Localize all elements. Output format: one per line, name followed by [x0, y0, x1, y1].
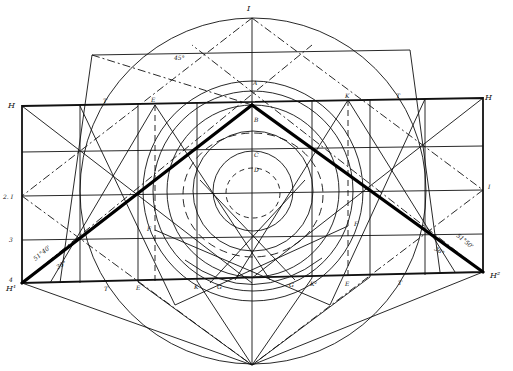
label-H-top-left: H: [8, 102, 15, 110]
label-H2: H²: [490, 272, 500, 280]
label-E-bottom-right: E: [345, 281, 349, 287]
label-H1: H¹: [6, 285, 16, 293]
label-D: D: [254, 167, 259, 173]
label-E-left-top: E: [151, 97, 155, 103]
label-E-bottom-left: E: [136, 285, 140, 291]
circle-a: [143, 81, 363, 301]
label-K-bottom-right: K²: [310, 281, 317, 287]
label-T-bottom-left: T: [104, 286, 108, 292]
label-A: A: [253, 80, 257, 86]
label-row-4: 4: [9, 277, 13, 283]
label-K-bottom-left: K: [194, 284, 198, 290]
thick-line-right: [252, 105, 483, 272]
label-I-left: 2. I: [3, 194, 13, 200]
dashed-oval-outer: [183, 133, 323, 257]
label-row-3: 3: [9, 237, 13, 243]
label-H-top-right: H: [485, 94, 492, 102]
label-G-left: G: [217, 284, 222, 290]
label-K-right-top: K: [345, 93, 349, 99]
label-G-right: G: [289, 282, 294, 288]
circle-e: [213, 151, 293, 231]
label-C: C: [254, 152, 259, 158]
label-I-right: I: [488, 184, 490, 190]
label-F-left: F: [147, 226, 151, 232]
label-top-angle: 45°: [174, 55, 185, 61]
label-B: B: [254, 117, 258, 123]
label-T-right-top: T: [396, 93, 400, 99]
label-top-I: I: [247, 5, 250, 13]
label-T-left-top: T: [103, 98, 107, 104]
label-T-bottom-right: T: [398, 280, 402, 286]
construction-drawing: [0, 0, 513, 371]
label-F-right: F: [354, 221, 358, 227]
